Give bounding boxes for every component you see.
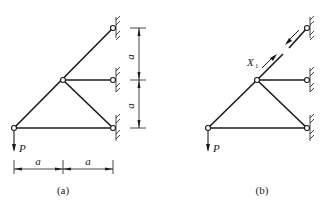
node-bottom-left — [206, 126, 211, 131]
wall-support-bottom — [310, 114, 314, 141]
node-middle-support — [111, 78, 116, 83]
dim-label-vertical-lower: a — [124, 103, 136, 109]
redundant-force-arrow-upper — [285, 30, 299, 45]
node-top-support — [111, 26, 116, 31]
wall-support-top — [116, 16, 120, 40]
wall-support-bottom — [116, 114, 120, 141]
node-middle — [61, 78, 66, 83]
horizontal-dimension — [14, 160, 113, 174]
member-left-diagonal — [208, 80, 257, 128]
wall-support-top — [310, 16, 314, 40]
node-bottom-right-support — [305, 126, 310, 131]
caption-b: (b) — [256, 184, 269, 197]
node-bottom-right-support — [111, 126, 116, 131]
load-arrow-p — [206, 131, 210, 152]
redundant-label-x: X — [246, 56, 255, 68]
wall-support-middle — [116, 67, 120, 92]
member-right-diagonal — [63, 80, 113, 128]
redundant-force-arrow-lower — [262, 54, 277, 68]
dim-label-vertical-upper: a — [124, 54, 136, 60]
wall-support-middle — [310, 67, 314, 92]
dim-label-horizontal-right: a — [85, 155, 91, 167]
redundant-label-subscript: 1 — [255, 62, 259, 70]
node-top-support — [305, 26, 310, 31]
member-right-diagonal — [257, 80, 307, 128]
node-middle — [255, 78, 260, 83]
panel-a: P a a a a (a) — [12, 16, 147, 197]
node-middle-support — [305, 78, 310, 83]
dim-label-horizontal-left: a — [35, 155, 41, 167]
vertical-dimension — [130, 28, 146, 128]
node-bottom-left — [12, 126, 17, 131]
member-cut-diagonal-lower — [257, 54, 283, 80]
load-arrow-p — [12, 131, 16, 152]
caption-a: (a) — [57, 184, 70, 197]
load-label-p: P — [212, 142, 220, 154]
truss-figure: P a a a a (a) — [0, 0, 321, 212]
load-label-p: P — [18, 142, 26, 154]
panel-b: X 1 — [206, 16, 315, 197]
